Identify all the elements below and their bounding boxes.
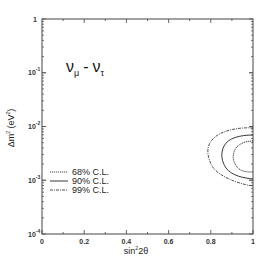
x-tick-label: 0.8	[206, 238, 216, 245]
y-axis-title: Δm2 (eV2)	[5, 109, 16, 148]
x-tick-label: 0.2	[79, 238, 89, 245]
y-tick-labels: 10-4 10-3 10-2 10-1 1	[28, 16, 40, 238]
x-tick-label: 0	[40, 238, 44, 245]
y-tick-label: 10-3	[28, 174, 40, 184]
plot-title: νμ-ντ	[66, 58, 105, 78]
x-ticks	[42, 19, 253, 234]
y-tick-label: 10-1	[28, 66, 40, 76]
x-tick-label: 0.6	[164, 238, 174, 245]
x-axis-title: sin22θ	[124, 245, 148, 256]
contour-99	[208, 128, 253, 186]
x-tick-label: 0.4	[122, 238, 132, 245]
contour-chart: 0 0.2 0.4 0.6 0.8 1 10-4 10-3 10-2 10-1 …	[0, 0, 269, 265]
legend-label: 99% C.L.	[72, 185, 109, 195]
y-tick-label: 10-4	[28, 228, 40, 238]
y-tick-label: 10-2	[28, 120, 40, 130]
y-tick-label: 1	[33, 16, 37, 23]
y-ticks	[42, 19, 253, 234]
plot-frame	[42, 19, 253, 234]
x-tick-labels: 0 0.2 0.4 0.6 0.8 1	[40, 238, 255, 245]
legend: 68% C.L. 90% C.L. 99% C.L.	[50, 167, 109, 195]
contours	[208, 128, 253, 186]
x-tick-label: 1	[251, 238, 255, 245]
contour-68	[233, 141, 253, 172]
